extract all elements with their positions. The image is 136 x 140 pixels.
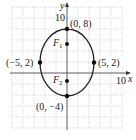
label-right-covertex: (5, 2) bbox=[98, 57, 120, 69]
point-top-vertex bbox=[65, 27, 69, 31]
label-top-vertex: (0, 8) bbox=[70, 18, 92, 30]
focus-f2 bbox=[65, 79, 69, 83]
ellipse-diagram: x y 10 10 (0, 8) (0, −4) (−5, 2) (5, 2) … bbox=[0, 0, 136, 140]
point-left-covertex bbox=[38, 60, 42, 64]
focus-f1 bbox=[65, 42, 69, 46]
point-right-covertex bbox=[92, 60, 96, 64]
x-tick-10: 10 bbox=[116, 75, 126, 86]
y-axis-label: y bbox=[59, 0, 65, 11]
point-bottom-vertex bbox=[65, 94, 69, 98]
y-tick-10: 10 bbox=[55, 12, 65, 23]
label-left-covertex: (−5, 2) bbox=[6, 57, 33, 69]
y-axis-arrow-icon bbox=[65, 2, 69, 7]
x-axis-label: x bbox=[127, 73, 133, 84]
label-bottom-vertex: (0, −4) bbox=[36, 101, 63, 113]
